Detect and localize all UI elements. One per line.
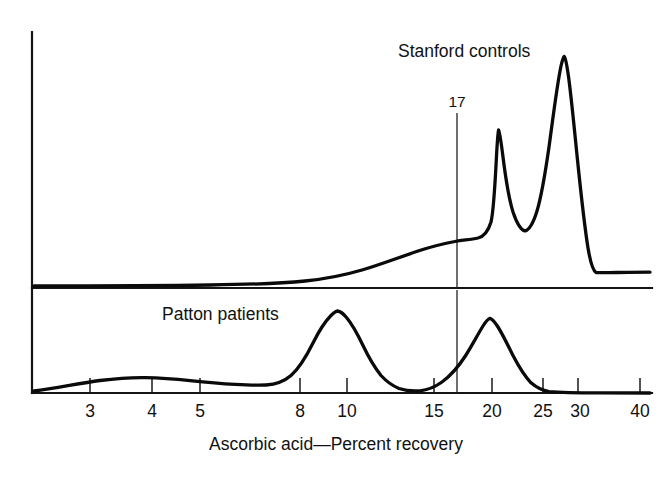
tick-label-8: 8 xyxy=(295,401,305,421)
series-label-stanford-controls: Stanford controls xyxy=(398,41,531,61)
series-label-patton-patients: Patton patients xyxy=(162,304,279,324)
trace-patton-patients xyxy=(34,311,650,393)
ascorbic-acid-recovery-chart: Stanford controls Patton patients 17 3 4… xyxy=(0,0,672,477)
tick-label-10: 10 xyxy=(337,401,357,421)
tick-label-30: 30 xyxy=(570,401,590,421)
tick-label-3: 3 xyxy=(85,401,95,421)
trace-stanford-controls xyxy=(34,57,650,287)
tick-label-40: 40 xyxy=(630,401,650,421)
chart-figure: Stanford controls Patton patients 17 3 4… xyxy=(0,0,672,477)
tick-label-25: 25 xyxy=(533,401,552,421)
x-axis-title: Ascorbic acid—Percent recovery xyxy=(209,434,463,454)
tick-label-5: 5 xyxy=(195,401,205,421)
reference-line-17-label: 17 xyxy=(448,93,465,110)
tick-label-4: 4 xyxy=(147,401,157,421)
tick-label-20: 20 xyxy=(482,401,502,421)
tick-label-15: 15 xyxy=(424,401,443,421)
